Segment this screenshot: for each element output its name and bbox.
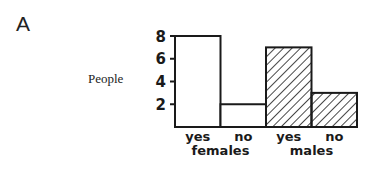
group-label-females: females (192, 143, 250, 158)
y-tick-label: 2 (156, 96, 166, 114)
bar-chart: 2468 yesnofemalesyesnomales (0, 0, 374, 174)
bars-group (175, 36, 357, 127)
y-tick-label: 4 (156, 73, 166, 91)
bar-females-no (221, 104, 267, 127)
bar-males-no (312, 93, 358, 127)
x-axis-labels: yesnofemalesyesnomales (185, 129, 343, 158)
category-label: no (234, 129, 252, 144)
y-tick-label: 8 (156, 28, 166, 46)
category-label: yes (276, 129, 301, 144)
bar-males-yes (266, 47, 312, 127)
group-label-males: males (290, 143, 334, 158)
bar-females-yes (175, 36, 221, 127)
category-label: no (325, 129, 343, 144)
category-label: yes (185, 129, 210, 144)
y-tick-label: 6 (156, 50, 166, 68)
